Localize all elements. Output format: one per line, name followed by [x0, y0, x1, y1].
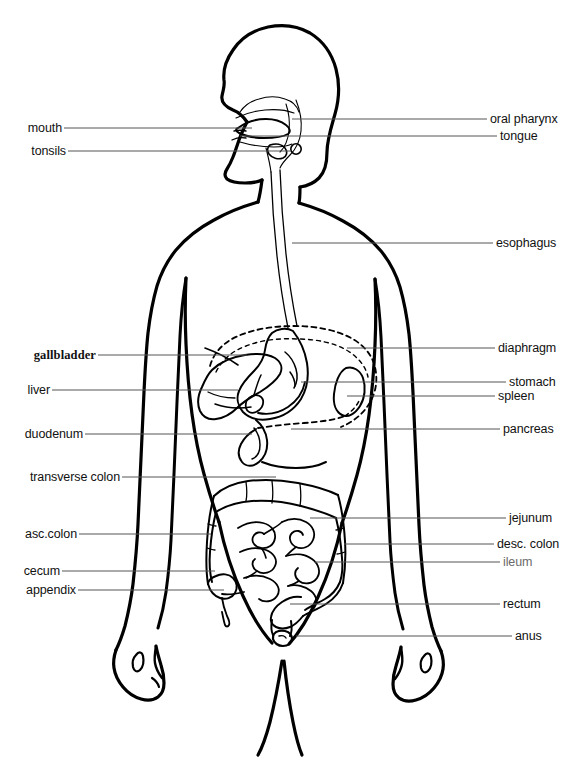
label-jejunum: jejunum: [509, 511, 552, 525]
label-duodenum: duodenum: [12, 427, 83, 441]
label-desc-colon: desc. colon: [497, 537, 559, 551]
pelvis-outline-right: [289, 523, 342, 644]
liver-edge-detail: [208, 392, 235, 398]
right-shoulder-arm-outer: [299, 203, 441, 651]
rectum-left-wall: [271, 620, 273, 635]
duodenum-inner: [252, 428, 260, 459]
gallbladder-outline: [246, 395, 263, 413]
small-intestine-coil-4: [286, 554, 319, 583]
pancreas-dashed: [258, 416, 345, 428]
left-thigh-line: [258, 661, 282, 755]
stomach-rugae-2: [290, 372, 295, 386]
right-thigh-line: [284, 661, 302, 755]
label-anus: anus: [515, 629, 542, 643]
label-tonsils: tonsils: [14, 144, 66, 158]
label-rectum: rectum: [503, 597, 541, 611]
transverse-colon-outline: [214, 480, 338, 496]
small-intestine-coil-5: [244, 576, 279, 602]
neck-back: [299, 187, 300, 203]
neck-front: [258, 180, 262, 202]
label-tongue: tongue: [500, 129, 538, 143]
trunk-left-side: [185, 278, 219, 522]
rectum-outline: [271, 597, 303, 629]
label-gallbladder: gallbladder: [16, 348, 96, 362]
transverse-colon-haustra-1: [246, 482, 247, 501]
left-hand-finger-notch: [152, 678, 159, 687]
anatomy-diagram: mouth tonsils gallbladder liver duodenum…: [0, 0, 577, 759]
label-asc-colon: asc.colon: [14, 527, 77, 541]
transverse-colon-haustra-2: [272, 481, 273, 503]
label-esophagus: esophagus: [496, 236, 556, 250]
pelvis-outline: [219, 522, 272, 643]
appendix-outline: [222, 598, 229, 627]
small-intestine-link-4: [246, 571, 257, 578]
cecum-outline: [208, 574, 237, 599]
label-liver: liver: [12, 383, 50, 397]
small-intestine-coil-3: [240, 548, 276, 573]
label-transverse-colon: transverse colon: [16, 470, 120, 484]
label-diaphragm: diaphragm: [498, 341, 556, 355]
right-arm-inner: [375, 279, 403, 629]
label-stomach: stomach: [509, 375, 556, 389]
label-spleen: spleen: [498, 389, 534, 403]
duodenum-to-jejunum: [262, 462, 326, 468]
left-hand-gap: [133, 652, 144, 671]
head-outline: [222, 26, 339, 187]
teeth-line: [234, 130, 246, 131]
left-hand-outline: [114, 646, 164, 700]
left-arm-inner: [158, 278, 186, 628]
transverse-colon-lower: [216, 501, 336, 518]
small-intestine-coil-2: [282, 519, 314, 548]
diaphragm-dashed-inner: [216, 339, 368, 377]
label-oral-pharynx: oral pharynx: [490, 112, 558, 126]
right-hand-outline: [393, 647, 443, 701]
anus-outline: [273, 631, 292, 646]
label-ileum: ileum: [503, 555, 532, 569]
label-mouth: mouth: [18, 121, 62, 135]
esophagus-right-line: [280, 170, 297, 326]
small-intestine-coil-1: [238, 522, 275, 548]
anus-inner-mark: [279, 636, 286, 638]
label-pancreas: pancreas: [503, 422, 554, 436]
right-hand-gap: [421, 653, 432, 672]
spleen-outline: [334, 367, 365, 416]
stomach-greater-curve: [258, 382, 305, 414]
leader-lines: [52, 119, 512, 636]
transverse-colon-haustra-3: [300, 484, 301, 506]
tonsil-marker: [291, 144, 301, 154]
label-appendix: appendix: [14, 583, 76, 597]
label-cecum: cecum: [14, 564, 60, 578]
